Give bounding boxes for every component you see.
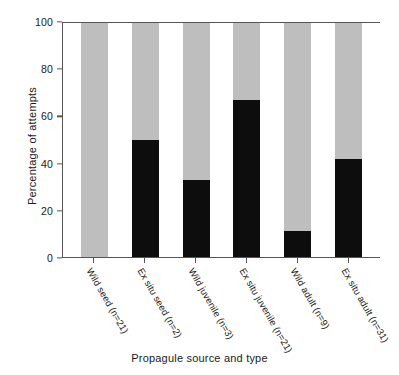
x-axis-category-label: Ex situ seed (n=2) [135, 266, 184, 340]
x-tick-6 [335, 258, 362, 263]
y-axis-title: Percentage of attempts [26, 51, 38, 241]
x-label-slot-1: Wild seed (n=21) [80, 264, 107, 344]
x-axis-category-label: Wild seed (n=21) [84, 266, 130, 335]
bars-container [63, 23, 380, 257]
x-axis-category-label: Wild juvenile (n=3) [186, 266, 236, 341]
x-label-slot-4: Ex situ juvenile (n=21) [233, 264, 260, 344]
x-tick-mark [246, 258, 247, 263]
x-label-slot-2: Ex situ seed (n=2) [131, 264, 158, 344]
x-label-slot-3: Wild juvenile (n=3) [182, 264, 209, 344]
bar-3[interactable] [183, 23, 210, 257]
y-tick-label: 80 [41, 63, 53, 75]
x-tick-mark [195, 258, 196, 263]
x-tick-mark [297, 258, 298, 263]
bar-segment-gray [233, 23, 260, 100]
x-tick-4 [233, 258, 260, 263]
bar-2[interactable] [132, 23, 159, 257]
x-tick-5 [284, 258, 311, 263]
y-tick-label: 20 [41, 205, 53, 217]
y-tick-label: 40 [41, 158, 53, 170]
bar-segment-gray [183, 23, 210, 180]
x-axis-category-label: Wild adult (n=9) [288, 266, 332, 331]
x-tick-mark [93, 258, 94, 263]
bar-4[interactable] [233, 23, 260, 257]
x-tick-mark [348, 258, 349, 263]
bar-1[interactable] [81, 23, 108, 257]
y-tick-label: 100 [35, 16, 53, 28]
bar-segment-gray [132, 23, 159, 140]
bar-6[interactable] [335, 23, 362, 257]
x-tick-2 [131, 258, 158, 263]
bar-segment-black [132, 140, 159, 257]
x-axis-title: Propagule source and type [0, 352, 399, 364]
y-tick-label: 60 [41, 110, 53, 122]
y-tick-label: 0 [47, 252, 53, 264]
bar-segment-black [335, 159, 362, 257]
bar-segment-black [183, 180, 210, 257]
x-tick-1 [80, 258, 107, 263]
plot-area [62, 22, 380, 258]
x-axis-category-label: Ex situ adult (n=31) [339, 266, 391, 344]
bar-segment-gray [284, 23, 311, 231]
x-tick-3 [182, 258, 209, 263]
bar-chart: 100806040200 Percentage of attempts Wild… [0, 0, 399, 375]
bar-segment-gray [335, 23, 362, 159]
bar-5[interactable] [284, 23, 311, 257]
x-label-slot-5: Wild adult (n=9) [284, 264, 311, 344]
bar-segment-black [233, 100, 260, 257]
x-axis-labels: Wild seed (n=21)Ex situ seed (n=2)Wild j… [62, 264, 380, 344]
bar-segment-black [284, 231, 311, 257]
x-label-slot-6: Ex situ adult (n=31) [335, 264, 362, 344]
bar-segment-gray [81, 23, 108, 257]
x-tick-mark [144, 258, 145, 263]
